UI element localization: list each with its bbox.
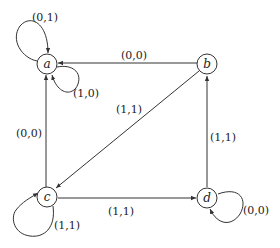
- label-c-d: (1,1): [108, 205, 134, 218]
- label-d-b: (1,1): [210, 131, 236, 144]
- node-b: b: [197, 54, 217, 74]
- node-c: c: [37, 187, 57, 207]
- node-d-label: d: [203, 191, 211, 205]
- node-b-label: b: [203, 57, 211, 71]
- state-diagram: (0,1) (1,0) (0,0) (1,1) (0,0) (1,1) (1,1…: [0, 0, 280, 248]
- label-a-a-01: (0,1): [32, 11, 58, 24]
- label-b-a: (0,0): [121, 49, 147, 62]
- node-a-label: a: [43, 57, 50, 71]
- label-c-c: (1,1): [54, 219, 80, 232]
- label-d-d: (0,0): [243, 204, 269, 217]
- label-a-a-10: (1,0): [73, 87, 99, 100]
- node-c-label: c: [44, 190, 51, 204]
- label-c-a: (0,0): [16, 127, 42, 140]
- node-a: a: [37, 54, 57, 74]
- label-b-c: (1,1): [116, 103, 142, 116]
- node-d: d: [197, 188, 217, 208]
